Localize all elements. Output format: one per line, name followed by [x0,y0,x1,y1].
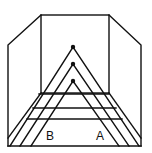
apex-dot-middle [71,62,75,66]
floor-edge-left [8,93,41,138]
perspective-room-drawing [0,0,152,153]
label-a: A [96,130,104,142]
label-b: B [46,130,54,142]
floor-edge-right [109,93,141,138]
triangle-inner [31,81,119,146]
right-wall [109,15,141,146]
apex-dot-inner [71,79,75,83]
diagram-canvas: B A [0,0,152,153]
left-wall [8,15,41,146]
apex-dot-outer [71,45,75,49]
